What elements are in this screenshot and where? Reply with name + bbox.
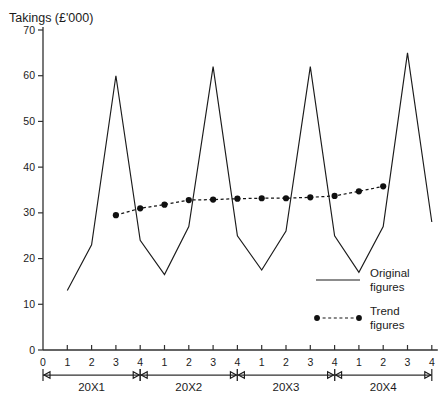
trend-data-point: [307, 194, 313, 200]
series-path-trend: [116, 186, 383, 215]
x-tick-label-8: 1: [259, 356, 265, 368]
x-tick-label-1: 2: [89, 356, 95, 368]
y-tick-label-0: 0: [29, 344, 35, 356]
trend-data-point: [259, 195, 265, 201]
x-axis-ticks: 01234123412341234: [40, 345, 435, 368]
y-tick-label-40: 40: [23, 161, 35, 173]
period-brackets: 20X120X220X320X4: [43, 369, 432, 393]
x-tick-label-origin: 0: [40, 356, 46, 368]
x-tick-label-3: 4: [137, 356, 143, 368]
trend-data-point: [137, 205, 143, 211]
x-tick-label-0: 1: [64, 356, 70, 368]
x-tick-label-12: 1: [356, 356, 362, 368]
x-tick-label-11: 4: [332, 356, 338, 368]
trend-data-point: [210, 197, 216, 203]
period-label-20X2: 20X2: [175, 381, 202, 393]
y-tick-label-30: 30: [23, 206, 35, 218]
trend-data-point: [234, 196, 240, 202]
x-tick-label-6: 3: [210, 356, 216, 368]
trend-data-point: [186, 197, 192, 203]
period-label-20X4: 20X4: [370, 381, 397, 393]
trend-data-point: [332, 193, 338, 199]
trend-data-point: [283, 195, 289, 201]
legend-label-trend-line1: Trend: [370, 305, 400, 317]
y-tick-label-50: 50: [23, 115, 35, 127]
series-path-original: [67, 53, 432, 291]
x-tick-label-2: 3: [113, 356, 119, 368]
chart-legend: Original figures Trend figures: [314, 267, 410, 331]
y-tick-label-70: 70: [23, 24, 35, 36]
period-label-20X1: 20X1: [78, 381, 105, 393]
y-tick-label-60: 60: [23, 69, 35, 81]
trend-data-point: [113, 212, 119, 218]
x-tick-label-5: 2: [186, 356, 192, 368]
legend-label-original-line1: Original: [370, 267, 410, 279]
x-tick-label-10: 3: [307, 356, 313, 368]
x-tick-label-14: 3: [405, 356, 411, 368]
chart-canvas: Takings (£'000) 010203040506070 01234123…: [0, 0, 438, 403]
x-tick-label-15: 4: [429, 356, 435, 368]
trend-data-point: [161, 202, 167, 208]
x-tick-label-9: 2: [283, 356, 289, 368]
trend-data-point: [356, 188, 362, 194]
legend-swatch-trend-dot-right: [356, 315, 362, 321]
takings-trend-chart: Takings (£'000) 010203040506070 01234123…: [0, 0, 438, 403]
x-tick-label-13: 2: [380, 356, 386, 368]
legend-label-trend-line2: figures: [370, 319, 405, 331]
x-tick-label-4: 1: [162, 356, 168, 368]
x-tick-label-7: 4: [234, 356, 240, 368]
y-tick-label-20: 20: [23, 252, 35, 264]
y-tick-label-10: 10: [23, 298, 35, 310]
legend-label-original-line2: figures: [370, 281, 405, 293]
period-label-20X3: 20X3: [273, 381, 300, 393]
trend-data-point: [380, 183, 386, 189]
y-axis-ticks: 010203040506070: [23, 24, 43, 356]
legend-swatch-trend-dot-left: [314, 315, 320, 321]
series-layer: [67, 53, 432, 291]
y-axis-title: Takings (£'000): [9, 11, 93, 25]
